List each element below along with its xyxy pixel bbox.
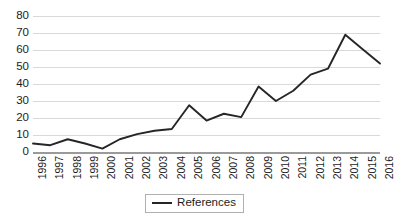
series-line (33, 35, 380, 149)
x-axis-line (33, 152, 380, 154)
y-axis-tick-label: 30 (16, 95, 29, 107)
x-axis-tick-label: 1996 (37, 156, 48, 179)
series-layer (33, 16, 380, 152)
x-axis-tick-label: 2002 (141, 156, 152, 179)
x-axis-tick-label: 1998 (72, 156, 83, 179)
x-axis-tick-label: 2015 (367, 156, 378, 179)
y-axis-tick-label: 70 (16, 27, 29, 39)
legend: References (0, 194, 389, 213)
y-axis: 01020304050607080 (0, 16, 29, 152)
x-axis-tick-label: 2013 (332, 156, 343, 179)
x-axis-tick-label: 1999 (89, 156, 100, 179)
y-axis-tick-label: 0 (23, 146, 29, 158)
y-axis-tick-label: 80 (16, 10, 29, 22)
x-axis-tick-label: 2008 (245, 156, 256, 179)
x-axis-tick-label: 2011 (297, 156, 308, 179)
x-axis-tick-label: 2007 (228, 156, 239, 179)
y-axis-tick-label: 20 (16, 112, 29, 124)
x-axis-tick-label: 1997 (54, 156, 65, 179)
x-axis: 1996199719981999200020012002200320042005… (33, 156, 380, 196)
y-axis-tick-label: 60 (16, 44, 29, 56)
x-axis-tick-label: 2012 (315, 156, 326, 179)
x-axis-tick-label: 2014 (349, 156, 360, 179)
legend-entry-label: References (177, 196, 236, 210)
legend-box: References (145, 194, 244, 213)
x-axis-tick-label: 2010 (280, 156, 291, 179)
x-axis-tick-label: 2009 (263, 156, 274, 179)
x-axis-tick-label: 2000 (106, 156, 117, 179)
x-axis-tick-label: 2003 (158, 156, 169, 179)
x-axis-tick-label: 2005 (193, 156, 204, 179)
x-axis-tick-label: 2001 (124, 156, 135, 179)
x-axis-tick-label: 2004 (176, 156, 187, 179)
y-axis-tick-label: 40 (16, 78, 29, 90)
plot-area (33, 16, 380, 152)
legend-line-swatch-icon (152, 202, 172, 204)
y-axis-tick-label: 10 (16, 129, 29, 141)
x-axis-tick-label: 2016 (384, 156, 395, 179)
x-axis-tick-label: 2006 (211, 156, 222, 179)
y-axis-tick-label: 50 (16, 61, 29, 73)
